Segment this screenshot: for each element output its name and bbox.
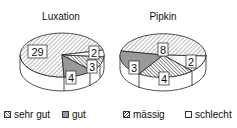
legend-item-sehr-gut: sehr gut [4, 109, 50, 120]
label-pip-gut: 3 [131, 62, 137, 74]
label-pip-schlecht: 2 [188, 56, 194, 68]
legend-item-maessig: mässig [123, 109, 165, 120]
light-hatch-swatch-icon [4, 111, 11, 118]
label-pip-maessig: 4 [161, 73, 167, 85]
gray-swatch-icon [62, 111, 69, 118]
white-swatch-icon [185, 111, 192, 118]
label-lux-maessig: 3 [89, 61, 95, 73]
label-lux-sehr-gut: 29 [31, 46, 43, 58]
legend-item-gut: gut [62, 109, 86, 120]
label-lux-schlecht: 2 [91, 47, 97, 59]
legend-item-schlecht: schlecht [185, 109, 232, 120]
label-pip-sehr-gut: 8 [160, 44, 166, 56]
chart-title-pipkin: Pipkin [149, 11, 176, 22]
pie-pipkin: 8 2 3 4 [120, 34, 206, 91]
label-lux-gut: 4 [68, 72, 74, 84]
chart-title-luxation: Luxation [42, 11, 80, 22]
dense-hatch-swatch-icon [123, 111, 130, 118]
pie-luxation: 29 2 3 4 [20, 33, 104, 91]
